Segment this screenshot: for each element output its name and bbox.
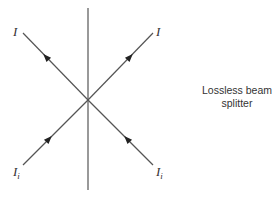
label-input-left-subscript: i: [17, 171, 20, 181]
caption-line-1: Lossless beam: [196, 84, 278, 97]
label-output-right: I: [155, 24, 161, 39]
label-input-right: Ii: [155, 164, 163, 181]
label-input-right-subscript: i: [160, 171, 163, 181]
diagram-caption: Lossless beam splitter: [196, 84, 278, 110]
output-beam-right: [88, 33, 153, 100]
output-beam-left: [23, 33, 88, 100]
input-beam-right: [88, 100, 153, 165]
input-beam-left: [23, 100, 88, 165]
label-input-left: Ii: [12, 164, 20, 181]
caption-line-2: splitter: [196, 97, 278, 110]
label-output-left: I: [12, 24, 18, 39]
